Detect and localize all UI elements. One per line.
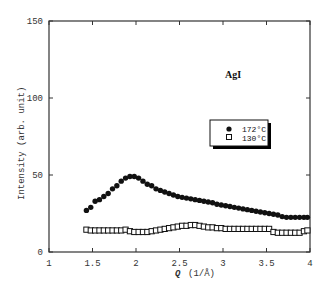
data-point-172c bbox=[140, 178, 145, 183]
series-130c bbox=[84, 222, 310, 235]
legend-marker-130c bbox=[227, 135, 232, 140]
data-point-172c bbox=[119, 178, 124, 183]
data-point-172c bbox=[110, 186, 115, 191]
series-172c bbox=[84, 174, 310, 220]
data-point-172c bbox=[84, 208, 89, 213]
x-tick-label: 3.5 bbox=[258, 259, 274, 269]
legend-label-172c: 172°C bbox=[242, 125, 266, 134]
y-axis-label: Intensity (arb. unit) bbox=[17, 87, 27, 200]
chart-svg: 11.522.533.54 050100150 AgI 172°C 130°C … bbox=[0, 0, 328, 297]
x-tick-label: 2.5 bbox=[171, 259, 187, 269]
x-tick-label: 4 bbox=[307, 259, 312, 269]
data-point-172c bbox=[101, 194, 106, 199]
data-point-172c bbox=[149, 183, 154, 188]
x-tick-label: 3 bbox=[220, 259, 225, 269]
y-tick-label: 0 bbox=[38, 248, 43, 258]
data-point-172c bbox=[136, 175, 141, 180]
data-point-172c bbox=[88, 205, 93, 210]
data-point-130c bbox=[305, 228, 310, 233]
data-point-172c bbox=[97, 197, 102, 202]
x-tick-label: 2 bbox=[133, 259, 138, 269]
y-tick-label: 50 bbox=[32, 171, 43, 181]
x-axis-label-q: Q bbox=[175, 269, 181, 279]
x-tick-label: 1.5 bbox=[84, 259, 100, 269]
y-tick-label: 100 bbox=[27, 94, 43, 104]
legend-label-130c: 130°C bbox=[242, 134, 266, 143]
x-axis-label-unit: (1/Å) bbox=[188, 268, 215, 279]
data-point-172c bbox=[305, 215, 310, 220]
annotation-agi: AgI bbox=[225, 69, 241, 80]
y-tick-label: 150 bbox=[27, 17, 43, 27]
data-point-172c bbox=[114, 183, 119, 188]
legend: 172°C 130°C bbox=[210, 120, 271, 149]
x-tick-label: 1 bbox=[46, 259, 51, 269]
data-point-172c bbox=[105, 191, 110, 196]
legend-marker-172c bbox=[226, 126, 231, 131]
